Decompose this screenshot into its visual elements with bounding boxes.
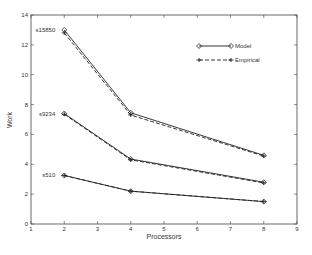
empirical-line (64, 114, 264, 183)
x-tick-label: 7 (229, 226, 233, 232)
star-marker-icon (62, 173, 67, 177)
x-tick-label: 1 (29, 226, 33, 232)
x-tick-label: 2 (63, 226, 67, 232)
x-tick-label: 3 (96, 226, 100, 232)
plot-area (31, 15, 297, 224)
x-tick-label: 5 (162, 226, 166, 232)
series-layer (62, 27, 267, 204)
line-chart: 12345678902468101214 s15850s9234s510 Mod… (0, 0, 312, 255)
y-tick-label: 4 (25, 161, 29, 167)
star-marker-icon (229, 58, 234, 62)
legend: ModelEmpirical (197, 43, 260, 63)
x-tick-label: 8 (262, 226, 266, 232)
x-tick-label: 6 (196, 226, 200, 232)
y-tick-label: 8 (25, 102, 29, 108)
legend-empirical-label: Empirical (235, 57, 260, 63)
x-axis-label: Processors (146, 233, 182, 240)
y-tick-label: 6 (25, 131, 29, 137)
y-axis-label: Work (6, 111, 13, 128)
series-annotation: s15850 (36, 27, 56, 33)
x-tick-label: 9 (295, 226, 299, 232)
y-tick-label: 12 (21, 42, 28, 48)
plot-border (31, 15, 297, 224)
empirical-line (64, 175, 264, 201)
model-line (64, 30, 264, 155)
star-marker-icon (128, 189, 133, 193)
series-annotation: s510 (42, 172, 56, 178)
series-annotation: s9234 (39, 111, 56, 117)
y-tick-label: 10 (21, 72, 28, 78)
x-tick-label: 4 (129, 226, 133, 232)
annotations: s15850s9234s510 (36, 27, 56, 179)
y-tick-label: 14 (21, 12, 28, 18)
star-marker-icon (197, 58, 202, 62)
empirical-line (64, 33, 264, 156)
y-tick-label: 0 (25, 221, 29, 227)
legend-model-label: Model (235, 43, 251, 49)
star-marker-icon (261, 200, 266, 204)
model-line (64, 175, 264, 201)
y-tick-label: 2 (25, 191, 29, 197)
